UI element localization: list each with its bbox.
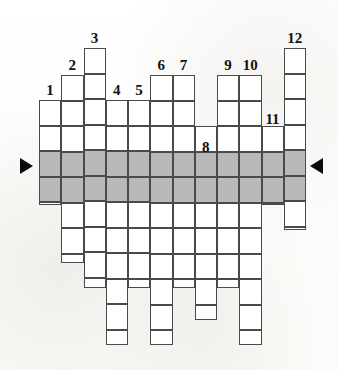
puzzle-cell[interactable] xyxy=(39,100,61,126)
puzzle-cell[interactable] xyxy=(195,254,217,280)
puzzle-cell[interactable] xyxy=(128,228,150,254)
puzzle-cell[interactable] xyxy=(217,126,239,152)
puzzle-cell[interactable] xyxy=(173,228,195,254)
puzzle-cell[interactable] xyxy=(39,126,61,152)
puzzle-cell[interactable] xyxy=(173,279,195,288)
solution-cell-col-10[interactable] xyxy=(239,152,261,178)
puzzle-cell[interactable] xyxy=(262,126,284,152)
puzzle-cell[interactable] xyxy=(61,228,83,254)
solution-cell-col-7[interactable] xyxy=(173,177,195,203)
puzzle-cell[interactable] xyxy=(61,203,83,229)
puzzle-cell[interactable] xyxy=(195,279,217,305)
puzzle-cell[interactable] xyxy=(106,100,128,126)
solution-cell-col-12[interactable] xyxy=(284,150,306,176)
puzzle-cell[interactable] xyxy=(239,228,261,254)
puzzle-cell[interactable] xyxy=(150,228,172,254)
puzzle-cell[interactable] xyxy=(173,254,195,280)
puzzle-cell[interactable] xyxy=(61,101,83,127)
solution-cell-col-5[interactable] xyxy=(128,177,150,203)
puzzle-cell[interactable] xyxy=(173,75,195,101)
puzzle-cell[interactable] xyxy=(61,254,83,264)
puzzle-cell[interactable] xyxy=(217,203,239,229)
solution-cell-col-5[interactable] xyxy=(128,151,150,177)
puzzle-cell[interactable] xyxy=(128,100,150,126)
puzzle-cell[interactable] xyxy=(84,227,106,253)
puzzle-cell[interactable] xyxy=(106,304,128,330)
puzzle-cell[interactable] xyxy=(61,75,83,101)
puzzle-cell[interactable] xyxy=(150,279,172,305)
puzzle-cell[interactable] xyxy=(239,279,261,305)
solution-cell-col-4[interactable] xyxy=(106,151,128,177)
puzzle-cell[interactable] xyxy=(84,48,106,74)
puzzle-cell[interactable] xyxy=(150,330,172,345)
puzzle-cell[interactable] xyxy=(217,75,239,101)
puzzle-cell[interactable] xyxy=(284,74,306,100)
solution-cell-col-2[interactable] xyxy=(61,177,83,203)
solution-cell-col-6[interactable] xyxy=(150,152,172,178)
puzzle-cell[interactable] xyxy=(284,227,306,231)
puzzle-cell[interactable] xyxy=(217,101,239,127)
solution-cell-col-11[interactable] xyxy=(262,177,284,203)
puzzle-cell[interactable] xyxy=(217,279,239,288)
puzzle-cell[interactable] xyxy=(195,305,217,321)
solution-cell-col-8[interactable] xyxy=(195,152,217,178)
puzzle-cell[interactable] xyxy=(150,254,172,280)
puzzle-cell[interactable] xyxy=(128,253,150,279)
puzzle-cell[interactable] xyxy=(284,125,306,151)
solution-cell-col-3[interactable] xyxy=(84,176,106,202)
puzzle-cell[interactable] xyxy=(173,203,195,229)
puzzle-cell[interactable] xyxy=(284,201,306,227)
puzzle-cell[interactable] xyxy=(150,305,172,331)
puzzle-cell[interactable] xyxy=(128,279,150,289)
puzzle-cell[interactable] xyxy=(106,202,128,228)
solution-cell-col-2[interactable] xyxy=(61,152,83,178)
solution-cell-col-9[interactable] xyxy=(217,152,239,178)
puzzle-cell[interactable] xyxy=(217,254,239,280)
solution-cell-col-11[interactable] xyxy=(262,152,284,178)
puzzle-cell[interactable] xyxy=(150,126,172,152)
puzzle-cell[interactable] xyxy=(239,254,261,280)
puzzle-cell[interactable] xyxy=(173,101,195,127)
solution-cell-col-3[interactable] xyxy=(84,150,106,176)
puzzle-cell[interactable] xyxy=(173,126,195,152)
solution-cell-col-8[interactable] xyxy=(195,177,217,203)
puzzle-cell[interactable] xyxy=(84,201,106,227)
puzzle-cell[interactable] xyxy=(84,252,106,278)
solution-cell-col-1[interactable] xyxy=(39,177,61,203)
puzzle-cell[interactable] xyxy=(239,330,261,345)
solution-cell-col-9[interactable] xyxy=(217,177,239,203)
puzzle-cell[interactable] xyxy=(61,126,83,152)
solution-cell-col-6[interactable] xyxy=(150,177,172,203)
puzzle-cell[interactable] xyxy=(195,203,217,229)
puzzle-cell[interactable] xyxy=(239,203,261,229)
puzzle-cell[interactable] xyxy=(239,75,261,101)
puzzle-cell[interactable] xyxy=(106,279,128,305)
puzzle-cell[interactable] xyxy=(150,203,172,229)
puzzle-cell[interactable] xyxy=(84,74,106,100)
puzzle-cell[interactable] xyxy=(284,99,306,125)
puzzle-cell[interactable] xyxy=(106,126,128,152)
puzzle-cell[interactable] xyxy=(128,202,150,228)
puzzle-cell[interactable] xyxy=(239,101,261,127)
solution-cell-col-7[interactable] xyxy=(173,152,195,178)
puzzle-cell[interactable] xyxy=(84,99,106,125)
puzzle-cell[interactable] xyxy=(239,126,261,152)
puzzle-cell[interactable] xyxy=(150,101,172,127)
solution-cell-col-10[interactable] xyxy=(239,177,261,203)
solution-cell-col-4[interactable] xyxy=(106,177,128,203)
puzzle-cell[interactable] xyxy=(150,75,172,101)
puzzle-cell[interactable] xyxy=(84,125,106,151)
puzzle-cell[interactable] xyxy=(239,305,261,331)
puzzle-cell[interactable] xyxy=(262,203,284,206)
puzzle-cell[interactable] xyxy=(284,48,306,74)
puzzle-cell[interactable] xyxy=(106,228,128,254)
puzzle-cell[interactable] xyxy=(39,202,61,205)
puzzle-cell[interactable] xyxy=(106,253,128,279)
puzzle-cell[interactable] xyxy=(195,228,217,254)
solution-cell-col-12[interactable] xyxy=(284,176,306,202)
puzzle-cell[interactable] xyxy=(128,126,150,152)
puzzle-cell[interactable] xyxy=(217,228,239,254)
puzzle-cell[interactable] xyxy=(84,278,106,289)
puzzle-cell[interactable] xyxy=(106,330,128,346)
solution-cell-col-1[interactable] xyxy=(39,151,61,177)
